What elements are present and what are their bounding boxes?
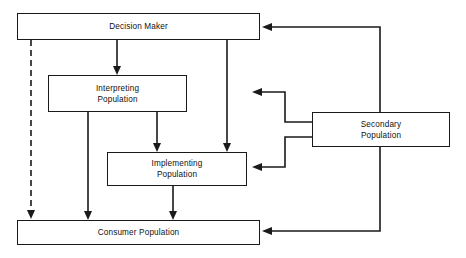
edge-decision-to-interpreting: [113, 40, 121, 75]
edge-implementing-to-consumer: [169, 186, 177, 220]
edge-decision-to-implementing: [223, 40, 231, 152]
node-interpreting-population-label: Interpreting Population: [94, 83, 141, 105]
edge-interpreting-to-implementing: [153, 112, 161, 152]
edge-interpreting-to-consumer-arrowhead: [84, 211, 92, 220]
edge-secondary-to-decision-arrowhead: [262, 23, 272, 31]
edge-secondary-to-implementing-line: [262, 137, 312, 167]
node-consumer-population-label: Consumer Population: [96, 227, 182, 238]
edge-secondary-to-decision-line: [272, 27, 380, 112]
edge-secondary-to-implementing-arrowhead: [252, 163, 262, 171]
node-implementing-population-label: Implementing Population: [150, 158, 205, 180]
edge-decision-to-implementing-arrowhead: [223, 143, 231, 152]
node-implementing-population[interactable]: Implementing Population: [107, 152, 247, 186]
flow-diagram: Decision Maker Interpreting Population I…: [0, 0, 466, 258]
edge-secondary-to-consumer: [262, 147, 380, 235]
edge-secondary-to-interpreting: [252, 88, 312, 122]
edge-secondary-to-interpreting-arrowhead: [252, 88, 262, 96]
edge-decision-to-consumer-dashed: [27, 40, 35, 219]
edge-implementing-to-consumer-arrowhead: [169, 211, 177, 220]
node-decision-maker-label: Decision Maker: [107, 21, 170, 32]
edge-secondary-to-implementing: [252, 137, 312, 171]
edge-secondary-to-interpreting-line: [262, 92, 312, 122]
edge-interpreting-to-consumer: [84, 112, 92, 220]
edge-secondary-to-consumer-arrowhead: [262, 227, 272, 235]
edge-secondary-to-consumer-line: [272, 147, 380, 231]
edge-decision-to-interpreting-arrowhead: [113, 66, 121, 75]
edge-secondary-to-decision: [262, 23, 380, 112]
edge-decision-to-consumer-dashed-arrowhead: [27, 210, 35, 219]
node-consumer-population[interactable]: Consumer Population: [17, 220, 260, 245]
node-secondary-population[interactable]: Secondary Population: [312, 112, 450, 147]
node-secondary-population-label: Secondary Population: [359, 119, 404, 141]
edge-interpreting-to-implementing-arrowhead: [153, 143, 161, 152]
node-interpreting-population[interactable]: Interpreting Population: [48, 75, 187, 112]
node-decision-maker[interactable]: Decision Maker: [17, 13, 260, 40]
